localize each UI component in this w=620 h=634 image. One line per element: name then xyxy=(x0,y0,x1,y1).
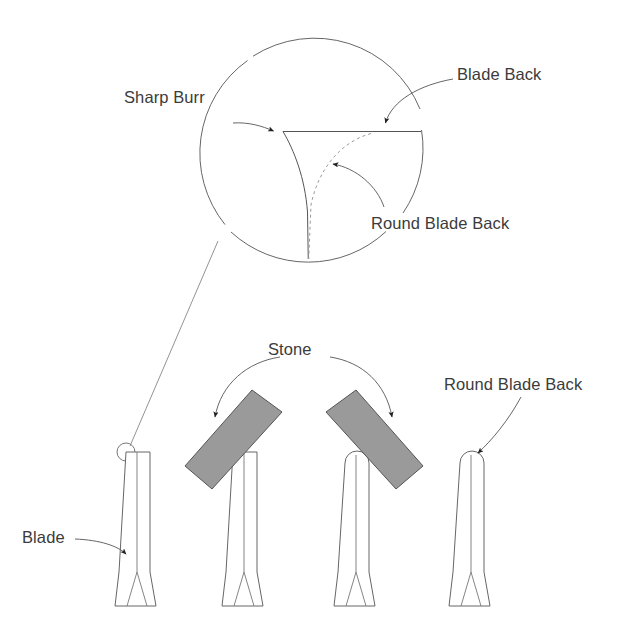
blade-4-outline xyxy=(449,451,490,606)
detail-contents xyxy=(283,132,421,277)
zoom-connector-line xyxy=(130,241,218,446)
label-sharp-burr: Sharp Burr xyxy=(124,88,205,106)
label-blade-back: Blade Back xyxy=(457,65,542,83)
blade-3-group xyxy=(334,451,375,606)
blade-1-outline xyxy=(115,452,156,606)
blade-3-outline xyxy=(334,451,375,606)
label-stone: Stone xyxy=(268,340,312,358)
blade-2-group xyxy=(222,452,263,606)
blade-side-sharp-corner xyxy=(283,132,309,277)
stone-right-group xyxy=(326,390,423,489)
round-blade-back-dashed-profile xyxy=(309,134,371,263)
blade-2-outline xyxy=(222,452,263,606)
label-blade: Blade xyxy=(22,528,65,546)
leader-round-blade-back-blade xyxy=(478,397,521,453)
leader-blade xyxy=(75,539,126,554)
diagram-root: Sharp Burr Blade Back Round Blade Back S… xyxy=(0,0,620,634)
blade-sharpening-diagram: Sharp Burr Blade Back Round Blade Back S… xyxy=(0,0,620,634)
blade-1-group xyxy=(115,452,156,606)
leader-sharp-burr xyxy=(233,123,274,131)
label-round-blade-back-blade: Round Blade Back xyxy=(444,375,583,393)
label-round-blade-back-detail: Round Blade Back xyxy=(371,214,510,232)
stone-right-shape xyxy=(326,390,423,489)
leader-round-blade-back-detail xyxy=(333,164,384,207)
leader-blade-back xyxy=(386,79,454,123)
detail-circle-group xyxy=(200,38,453,276)
blade-4-group xyxy=(449,451,490,606)
